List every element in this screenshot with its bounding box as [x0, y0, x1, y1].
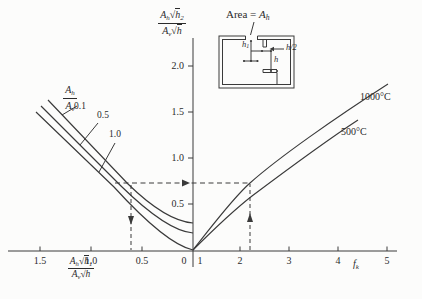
y-axis-label: Ah√h2 Av√h [148, 9, 196, 38]
curve-label-500C: 500°C [341, 127, 367, 138]
left-x-tick-0: 0 [178, 256, 190, 267]
dimension-dot [270, 70, 272, 72]
right-x-axis-label: fk [353, 259, 359, 271]
left-x-axis-label-denominator: Av√h [70, 269, 93, 281]
curve-label-1000C: 1000°C [360, 92, 391, 103]
right-x-tick-marks [240, 247, 387, 252]
figure-canvas [0, 0, 422, 299]
inset-outer-wall [219, 36, 294, 88]
area-label-leader-line [251, 22, 255, 35]
right-x-tick-3: 3 [279, 256, 299, 267]
y-tick-0.5: 0.5 [164, 199, 184, 210]
arrow-up-icon [247, 213, 253, 222]
inset-compartment-sketch [219, 22, 294, 88]
dimension-dot [250, 60, 252, 62]
dimension-dot [243, 60, 245, 62]
y-axis-label-denominator: Av√h [160, 24, 184, 38]
dimension-dot [250, 40, 252, 42]
right-x-tick-1: 1 [194, 256, 206, 267]
dim-h-label: h [274, 55, 278, 64]
dim-half-label: h/2 [286, 43, 297, 52]
dimension-dot [261, 50, 263, 52]
y-tick-1.0: 1.0 [164, 153, 184, 164]
dimension-dot [256, 60, 258, 62]
right-x-tick-2: 2 [230, 256, 250, 267]
arrow-down-icon [128, 216, 134, 225]
right-x-tick-4: 4 [328, 256, 348, 267]
left-x-tick-marks [40, 247, 142, 252]
left-x-tick-1.5: 1.5 [30, 256, 50, 267]
left-line-0.5 [41, 106, 193, 233]
left-x-tick-0.5: 0.5 [132, 256, 152, 267]
dim-h1-label: h1 [242, 40, 249, 50]
left-x-axis-label: Ah√h1 Av√h [54, 256, 108, 280]
dimension-dot [270, 50, 272, 52]
inset-ceiling-stub [263, 40, 267, 48]
ratio-label-numerator: Ah [63, 84, 77, 99]
curve-500C [193, 120, 358, 250]
figure-nomogram: Ah√h2 Av√h Area = Ah h1 h/2 h Ah Av 0.1 … [0, 0, 422, 299]
y-axis-label-numerator: Ah√h2 [158, 9, 186, 24]
y-tick-2.0: 2.0 [164, 61, 184, 72]
right-x-tick-5: 5 [377, 256, 397, 267]
dimension-dot [276, 70, 278, 72]
inset-inner-wall [223, 40, 291, 85]
left-x-axis-label-numerator: Ah√h1 [68, 256, 94, 269]
arrow-right-icon [182, 180, 190, 187]
inset-wall-step [263, 70, 277, 85]
left-line-label-1.0: 1.0 [109, 130, 121, 140]
inset-area-label: Area = Ah [226, 9, 270, 22]
left-line-label-0.5: 0.5 [97, 111, 109, 121]
y-tick-1.5: 1.5 [164, 107, 184, 118]
left-line-label-0.1: 0.1 [74, 102, 86, 112]
